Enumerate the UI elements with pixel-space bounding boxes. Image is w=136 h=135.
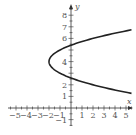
x-tick-label: 2 [90, 111, 95, 120]
x-tick-label: 4 [112, 111, 117, 120]
y-tick-label: 8 [62, 11, 67, 20]
x-axis-arrow-icon [128, 106, 133, 110]
x-tick-label: 3 [101, 111, 106, 120]
y-tick-label: 2 [62, 81, 67, 90]
x-tick-label: 1 [79, 111, 84, 120]
y-axis-arrow-icon [69, 4, 73, 9]
y-tick-label: 7 [62, 23, 67, 32]
x-tick-label: 5 [123, 111, 128, 120]
y-tick-label: 1 [62, 92, 67, 101]
y-tick-label: −1 [55, 116, 67, 125]
y-axis-label: y [74, 2, 80, 11]
x-axis-label: x [127, 97, 132, 106]
parabola-chart: −5−4−3−2−112345−1124678 x y [0, 0, 136, 135]
y-tick-label: 4 [62, 58, 67, 67]
y-tick-label: 6 [62, 34, 67, 43]
